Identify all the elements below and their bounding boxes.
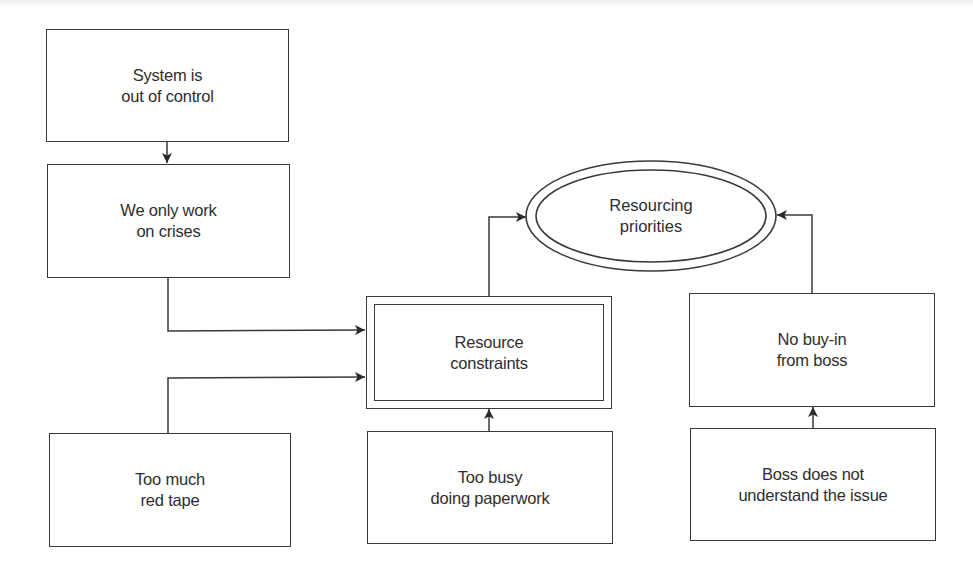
edge-crises-to-constraints <box>168 277 365 331</box>
node-boss-not-understand: Boss does not understand the issue <box>690 428 936 541</box>
edge-buyin-to-priorities <box>777 215 812 293</box>
node-red-tape: Too much red tape <box>49 433 291 547</box>
edge-constraints-to-priorities <box>489 217 526 296</box>
node-inner-border: Resource constraints <box>374 304 604 401</box>
node-no-buy-in: No buy-in from boss <box>689 293 935 407</box>
node-work-on-crises: We only work on crises <box>47 164 290 278</box>
resourcing-priorities-label: Resourcing priorities <box>551 186 751 246</box>
node-label: No buy-in from boss <box>777 329 848 371</box>
diagram-canvas: Resourcing priorities System is out of c… <box>0 0 973 574</box>
node-label: We only work on crises <box>120 200 216 242</box>
node-paperwork: Too busy doing paperwork <box>367 431 613 544</box>
node-system-out-of-control: System is out of control <box>46 29 289 142</box>
node-label: Resource constraints <box>450 332 528 374</box>
node-label: Too much red tape <box>135 469 205 511</box>
node-label: Too busy doing paperwork <box>431 467 550 509</box>
node-label: Boss does not understand the issue <box>738 464 887 506</box>
node-label: System is out of control <box>121 65 214 107</box>
node-resource-constraints: Resource constraints <box>366 296 612 409</box>
edge-redtape-to-constraints <box>168 377 365 433</box>
